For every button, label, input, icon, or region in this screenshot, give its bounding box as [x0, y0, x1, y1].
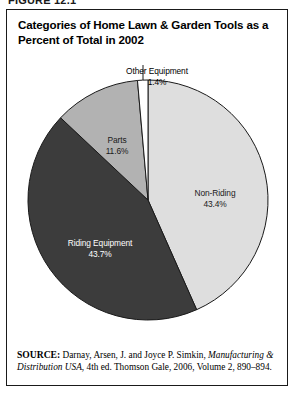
slice-label-parts-name: Parts: [78, 135, 156, 146]
slice-label-other-equipment-name: Other Equipment: [98, 66, 216, 77]
slice-label-riding-equipment-value: 43.7%: [50, 249, 150, 260]
source-text-before: Darnay, Arsen, J. and Joyce P. Simkin,: [60, 350, 208, 360]
pie-chart-svg: [6, 9, 288, 329]
slice-label-other-equipment: Other Equipment 1.4%: [98, 66, 216, 87]
pie-chart: Other Equipment 1.4% Parts 11.6% Non-Rid…: [6, 9, 288, 329]
slice-label-non-riding-name: Non-Riding: [172, 188, 258, 199]
figure-number: FIGURE 12.1: [8, 0, 76, 6]
slice-label-other-equipment-value: 1.4%: [98, 77, 216, 88]
slice-label-riding-equipment: Riding Equipment 43.7%: [50, 238, 150, 259]
slice-label-non-riding: Non-Riding 43.4%: [172, 188, 258, 209]
slice-label-parts-value: 11.6%: [78, 146, 156, 157]
slice-label-parts: Parts 11.6%: [78, 135, 156, 156]
source-text-after: , 4th ed. Thomson Gale, 2006, Volume 2, …: [82, 362, 272, 372]
source-note: SOURCE: Darnay, Arsen, J. and Joyce P. S…: [17, 349, 279, 373]
slice-label-non-riding-value: 43.4%: [172, 199, 258, 210]
source-label: SOURCE:: [17, 349, 60, 360]
slice-label-riding-equipment-name: Riding Equipment: [50, 238, 150, 249]
